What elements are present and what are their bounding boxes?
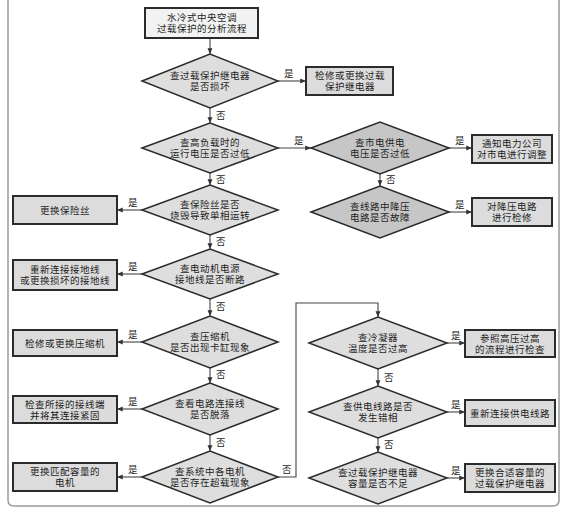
edge-label-yes: 是 bbox=[294, 135, 304, 146]
action-node-a4: 重新连接接地线或更换损坏的接地线 bbox=[13, 260, 117, 290]
edge-label-no: 否 bbox=[216, 110, 226, 121]
edge-label-no: 否 bbox=[386, 174, 396, 185]
node-text-line: 是否出现卡缸现象 bbox=[170, 342, 250, 353]
action-node-a2r: 通知电力公司对市电进行调整 bbox=[472, 135, 552, 163]
node-text-line: 查冷凝器 bbox=[358, 332, 398, 343]
node-text-line: 电机 bbox=[55, 477, 75, 488]
node-text-line: 烧毁导致单相运转 bbox=[170, 210, 250, 221]
edge-label-yes: 是 bbox=[128, 261, 138, 272]
edge-label-yes: 是 bbox=[128, 329, 138, 340]
action-node-a8: 参照高压过高的流程进行检查 bbox=[465, 330, 555, 357]
node-text-line: 保护继电器 bbox=[325, 81, 375, 92]
action-node-a5: 检修或更换压缩机 bbox=[13, 330, 117, 356]
node-text-line: 查压缩机 bbox=[190, 331, 230, 342]
edge-label-yes: 是 bbox=[455, 135, 465, 146]
edge-label-no: 否 bbox=[216, 369, 226, 380]
edge-label-yes: 是 bbox=[451, 465, 461, 476]
node-text-line: 查电动机电源 bbox=[180, 263, 240, 274]
node-text-line: 查过载保护继电器 bbox=[338, 467, 418, 478]
node-text-line: 电压是否过低 bbox=[350, 148, 410, 159]
node-text-line: 对降压电路 bbox=[487, 201, 537, 212]
node-text-line: 查供电线路是否 bbox=[343, 401, 413, 412]
node-text-line: 进行检修 bbox=[492, 212, 532, 223]
action-node-a9: 重新连接供电线路 bbox=[465, 400, 555, 426]
node-text-line: 水冷式中央空调 bbox=[167, 12, 237, 23]
node-text-line: 更换匹配容量的 bbox=[30, 466, 100, 477]
edge-label-yes: 是 bbox=[128, 464, 138, 475]
edge-label-yes: 是 bbox=[455, 199, 465, 210]
edge-label-yes: 是 bbox=[451, 399, 461, 410]
node-text-line: 参照高压过高 bbox=[480, 333, 540, 344]
edge-label-no: 否 bbox=[384, 372, 394, 383]
node-text-line: 的流程进行检查 bbox=[475, 344, 545, 355]
node-text-line: 容量是否不足 bbox=[348, 478, 408, 489]
node-text-line: 重新连接接地线 bbox=[30, 264, 100, 275]
node-text-line: 是否损坏 bbox=[190, 81, 230, 92]
node-text-line: 并将其连接紧固 bbox=[30, 410, 100, 421]
node-text-line: 查市电供电 bbox=[355, 137, 405, 148]
node-text-line: 温度是否过高 bbox=[348, 343, 408, 354]
node-text-line: 重新连接供电线路 bbox=[470, 408, 550, 419]
node-text-line: 是否脱落 bbox=[190, 409, 230, 420]
node-text-line: 接地线是否断路 bbox=[175, 274, 245, 285]
action-node-a1: 检修或更换过载保护继电器 bbox=[306, 67, 393, 95]
action-node-a3r: 对降压电路进行检修 bbox=[472, 198, 552, 226]
edge-label-yes: 是 bbox=[128, 197, 138, 208]
node-text-line: 电路是否故障 bbox=[350, 212, 410, 223]
flowchart-canvas: 水冷式中央空调过载保护的分析流程查过载保护继电器是否损坏检修或更换过载保护继电器… bbox=[0, 0, 569, 512]
node-text-line: 查看电路连接线 bbox=[175, 398, 245, 409]
action-node-a10: 更换合适容量的过载保护继电器 bbox=[465, 464, 555, 492]
action-node-a7: 更换匹配容量的电机 bbox=[13, 463, 117, 491]
node-text-line: 查保险丝是否 bbox=[180, 199, 240, 210]
edge-label-no: 否 bbox=[216, 174, 226, 185]
edge-label-no: 否 bbox=[216, 236, 226, 247]
node-text-line: 检查所接的接线端 bbox=[25, 399, 105, 410]
edge-label-yes: 是 bbox=[451, 330, 461, 341]
node-text-line: 是否存在超载现象 bbox=[170, 477, 250, 488]
node-text-line: 过载保护的分析流程 bbox=[157, 23, 247, 34]
node-text-line: 运行电压是否过低 bbox=[170, 148, 250, 159]
node-text-line: 或更换损坏的接地线 bbox=[20, 275, 110, 286]
node-text-line: 对市电进行调整 bbox=[477, 149, 547, 160]
node-text-line: 查高负载时的 bbox=[180, 137, 240, 148]
node-text-line: 检修或更换过载 bbox=[315, 70, 385, 81]
node-text-line: 查线路中降压 bbox=[350, 201, 410, 212]
edge-label-no: 否 bbox=[384, 439, 394, 450]
node-text-line: 检修或更换压缩机 bbox=[25, 338, 105, 349]
edge-label-yes: 是 bbox=[128, 396, 138, 407]
node-text-line: 更换合适容量的 bbox=[475, 467, 545, 478]
action-node-a3: 更换保险丝 bbox=[13, 196, 117, 224]
edge-label-yes: 是 bbox=[284, 68, 294, 79]
node-text-line: 更换保险丝 bbox=[40, 205, 90, 216]
node-text-line: 查过载保护继电器 bbox=[170, 70, 250, 81]
node-text-line: 发生错相 bbox=[358, 412, 398, 423]
node-text-line: 通知电力公司 bbox=[482, 138, 542, 149]
node-text-line: 查系统中各电机 bbox=[175, 466, 245, 477]
action-node-a6: 检查所接的接线端并将其连接紧固 bbox=[13, 396, 117, 423]
edge-label-no: 否 bbox=[282, 464, 292, 475]
node-text-line: 过载保护继电器 bbox=[475, 478, 545, 489]
start-node-start: 水冷式中央空调过载保护的分析流程 bbox=[145, 8, 258, 38]
edge-label-no: 否 bbox=[216, 301, 226, 312]
edge-label-no: 否 bbox=[216, 437, 226, 448]
